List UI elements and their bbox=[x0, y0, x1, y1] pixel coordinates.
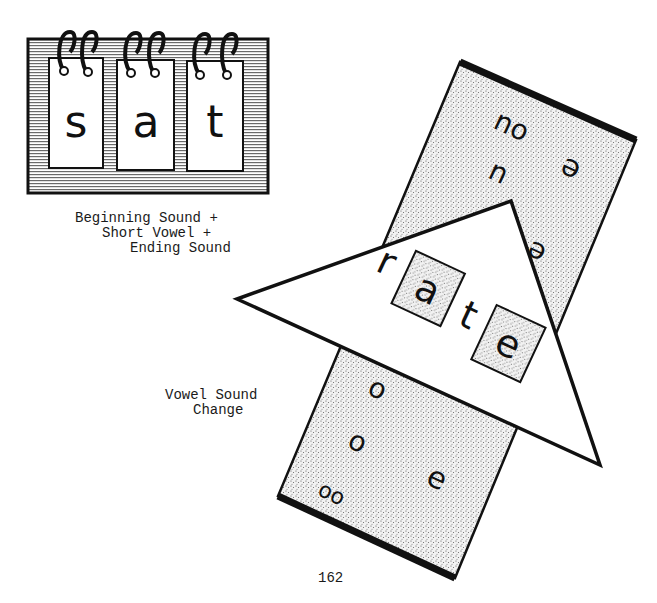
caption-line: Change bbox=[193, 402, 243, 418]
caption-line: Vowel Sound bbox=[165, 387, 257, 403]
caption-line: Short Vowel + bbox=[102, 225, 211, 241]
page-number: 162 bbox=[318, 570, 343, 586]
page-illustration: s a t Beginning Sound + Short Vowel + En… bbox=[0, 0, 657, 603]
flip-chart: s a t bbox=[28, 32, 268, 193]
flip-chart-caption: Beginning Sound + Short Vowel + Ending S… bbox=[75, 210, 231, 256]
flip-card-letter: a bbox=[133, 96, 160, 147]
flip-card-1: s bbox=[49, 58, 103, 168]
flip-card-letter: s bbox=[65, 96, 88, 147]
flip-card-2: a bbox=[117, 60, 174, 170]
caption-line: Ending Sound bbox=[130, 240, 231, 256]
vowel-change-caption: Vowel Sound Change bbox=[165, 387, 257, 418]
caption-line: Beginning Sound + bbox=[75, 210, 218, 226]
flip-card-letter: t bbox=[206, 96, 223, 147]
flip-card-3: t bbox=[187, 61, 243, 171]
